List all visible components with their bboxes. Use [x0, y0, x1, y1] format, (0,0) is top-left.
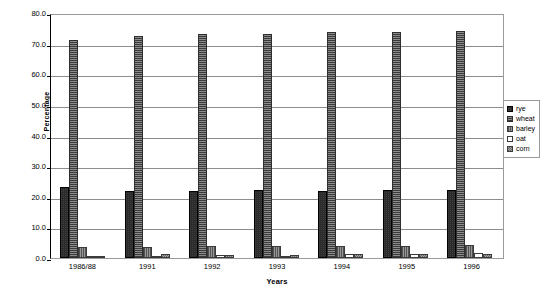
- bar-group-1992: [180, 15, 245, 258]
- legend-swatch-wheat-icon: [507, 116, 513, 122]
- x-axis-title: Years: [50, 277, 504, 286]
- bar-rye-1995: [383, 190, 392, 258]
- bar-wheat-1996: [456, 31, 465, 258]
- y-axis-tick: [47, 260, 51, 261]
- plot-area: [50, 14, 504, 259]
- y-axis-tick-label: 60.0: [14, 71, 46, 79]
- bar-wheat-1992: [198, 34, 207, 258]
- x-axis-tick-labels: 1986/88199119921993199419951996: [50, 262, 504, 271]
- bar-corn-1992: [225, 255, 234, 258]
- legend-item-corn: corn: [507, 144, 535, 154]
- legend-swatch-rye-icon: [507, 106, 513, 112]
- x-axis-tick-label: 1996: [439, 262, 504, 271]
- legend-item-barley: barley: [507, 124, 535, 134]
- legend-swatch-corn-icon: [507, 146, 513, 152]
- bar-barley-1991: [143, 247, 152, 258]
- y-axis-tick-label: 20.0: [14, 194, 46, 202]
- y-axis-tick-label: 10.0: [14, 224, 46, 232]
- legend-label: rye: [516, 105, 526, 113]
- bar-group-1994: [309, 15, 374, 258]
- x-axis-tick-label: 1992: [180, 262, 245, 271]
- bar-oat-1993: [281, 256, 290, 258]
- x-axis-tick-label: 1986/88: [50, 262, 115, 271]
- legend-label: wheat: [516, 115, 535, 123]
- x-axis-tick-label: 1991: [115, 262, 180, 271]
- bar-oat-1994: [345, 254, 354, 258]
- y-axis-tick-label: 80.0: [14, 10, 46, 18]
- bars-layer: [51, 15, 503, 258]
- legend-item-wheat: wheat: [507, 114, 535, 124]
- bar-corn-1994: [354, 254, 363, 258]
- bar-oat-1996: [474, 253, 483, 258]
- bar-corn-1991: [161, 254, 170, 258]
- bar-barley-1995: [401, 246, 410, 258]
- bar-corn-1993: [290, 255, 299, 258]
- bar-corn-1996: [483, 254, 492, 258]
- legend-swatch-barley-icon: [507, 126, 513, 132]
- x-axis-tick-label: 1993: [245, 262, 310, 271]
- x-axis-tick-label: 1994: [309, 262, 374, 271]
- x-axis-tick-label: 1995: [374, 262, 439, 271]
- y-axis-tick-label: 0.0: [14, 255, 46, 263]
- bar-oat-1995: [410, 254, 419, 258]
- legend-label: corn: [516, 145, 530, 153]
- bar-group-1995: [374, 15, 439, 258]
- y-axis-tick-labels: 80.070.060.050.040.030.020.010.00.0: [14, 14, 46, 259]
- bar-rye-1996: [447, 190, 456, 258]
- bar-corn-1995: [419, 254, 428, 258]
- bar-oat-1991: [152, 256, 161, 258]
- bar-barley-1993: [272, 246, 281, 258]
- legend-item-oat: oat: [507, 134, 535, 144]
- bar-rye-1992: [189, 191, 198, 258]
- bar-barley-1996: [465, 245, 474, 258]
- bar-wheat-1986-88: [69, 40, 78, 258]
- bar-wheat-1994: [327, 32, 336, 258]
- legend-item-rye: rye: [507, 104, 535, 114]
- y-axis-tick-label: 30.0: [14, 163, 46, 171]
- bar-barley-1986-88: [78, 247, 87, 258]
- bar-corn-1986-88: [96, 256, 105, 258]
- bar-chart: Percentage 80.070.060.050.040.030.020.01…: [0, 0, 555, 299]
- bar-wheat-1995: [392, 32, 401, 258]
- bar-rye-1986-88: [60, 187, 69, 258]
- bar-rye-1994: [318, 191, 327, 258]
- legend: ryewheatbarleyoatcorn: [503, 100, 540, 158]
- y-axis-tick-label: 40.0: [14, 133, 46, 141]
- bar-group-1986-88: [51, 15, 116, 258]
- bar-group-1996: [438, 15, 503, 258]
- legend-label: oat: [516, 135, 526, 143]
- bar-wheat-1993: [263, 34, 272, 258]
- y-axis-tick-label: 50.0: [14, 102, 46, 110]
- bar-barley-1992: [207, 246, 216, 258]
- bar-group-1993: [245, 15, 310, 258]
- y-axis-tick-label: 70.0: [14, 41, 46, 49]
- bar-oat-1986-88: [87, 256, 96, 258]
- bar-wheat-1991: [134, 36, 143, 258]
- bar-oat-1992: [216, 255, 225, 258]
- bar-barley-1994: [336, 246, 345, 258]
- bar-group-1991: [116, 15, 181, 258]
- legend-label: barley: [516, 125, 535, 133]
- bar-rye-1993: [254, 190, 263, 258]
- legend-swatch-oat-icon: [507, 136, 513, 142]
- bar-rye-1991: [125, 191, 134, 258]
